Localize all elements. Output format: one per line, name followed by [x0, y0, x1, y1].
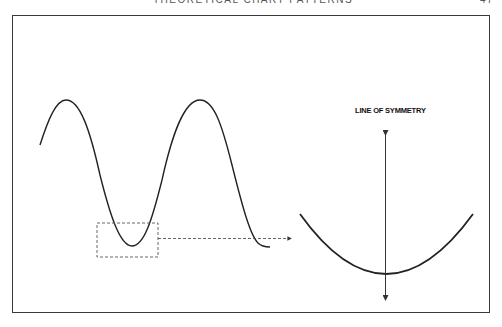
line-of-symmetry-label: LINE OF SYMMETRY	[355, 106, 426, 115]
sine-wave	[40, 100, 270, 247]
enlarged-trough	[300, 214, 473, 274]
pattern-diagram	[0, 0, 502, 327]
zoom-box	[97, 223, 158, 257]
